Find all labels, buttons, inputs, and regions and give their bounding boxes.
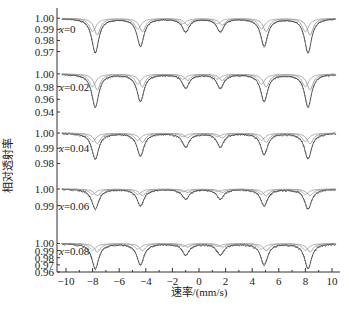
- y-tick-label: 0.96: [35, 93, 55, 105]
- y-tick-label: 0.98: [35, 157, 55, 169]
- x-tick-label: −8: [87, 275, 99, 287]
- y-tick-label: 0.98: [35, 81, 55, 93]
- x-tick-label: 10: [327, 275, 339, 287]
- x-tick-label: −10: [57, 275, 75, 287]
- x-tick-label: −6: [113, 275, 125, 287]
- panel-label: x=0.06: [58, 200, 90, 212]
- panel-x=0.04: 1.000.990.98x=0.04: [35, 127, 336, 169]
- fit-total: [62, 189, 335, 209]
- x-axis-label: 速率/(mm/s): [171, 285, 228, 299]
- fit-total: [62, 134, 335, 160]
- panel-label: x=0.02: [58, 81, 89, 93]
- y-tick-label: 0.99: [35, 200, 55, 212]
- x-tick-label: 6: [276, 275, 282, 287]
- mossbauer-spectra-chart: 1.000.990.980.97x=01.000.980.960.94x=0.0…: [0, 0, 349, 331]
- y-tick-label: 0.99: [35, 142, 55, 154]
- y-tick-label: 1.00: [35, 68, 55, 80]
- panel-label: x=0.04: [58, 142, 90, 154]
- y-axis-label: 相对透射率: [1, 138, 14, 193]
- y-tick-label: 0.96: [35, 266, 55, 278]
- y-tick-label: 0.94: [35, 106, 55, 118]
- panel-label: x=0: [58, 23, 76, 35]
- x-tick-label: 8: [303, 275, 309, 287]
- x-tick-label: 4: [249, 275, 255, 287]
- panel-label: x=0.08: [58, 245, 90, 257]
- spectra-panels: 1.000.990.980.97x=01.000.980.960.94x=0.0…: [35, 12, 336, 278]
- y-tick-label: 0.97: [35, 46, 55, 58]
- fit-total: [62, 244, 335, 269]
- y-tick-label: 1.00: [35, 127, 55, 139]
- panel-x=0.06: 1.000.99x=0.06: [35, 183, 336, 212]
- panel-x=0.02: 1.000.980.960.94x=0.02: [35, 68, 336, 118]
- y-tick-label: 1.00: [35, 183, 55, 195]
- x-tick-label: −4: [140, 275, 152, 287]
- panel-x=0: 1.000.990.980.97x=0: [35, 12, 336, 57]
